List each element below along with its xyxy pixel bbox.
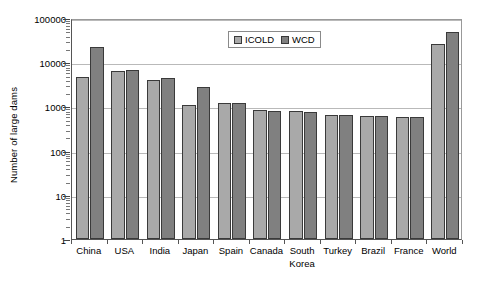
bar-category-group (108, 20, 144, 239)
y-minor-tick (66, 121, 70, 122)
bar-icold (289, 111, 303, 239)
x-tick-label: France (394, 245, 424, 258)
x-tick-label: Japan (182, 245, 208, 258)
x-tick (107, 240, 108, 244)
y-minor-tick (66, 227, 70, 228)
bar-category-group (392, 20, 428, 239)
bar-wcd (232, 103, 246, 239)
y-minor-tick (66, 77, 70, 78)
bar-wcd (90, 47, 104, 239)
x-tick-label: Brazil (361, 245, 385, 258)
bar-wcd (375, 116, 389, 239)
y-major-tick (63, 19, 70, 20)
bar-icold (182, 105, 196, 239)
chart-legend: ICOLD WCD (228, 31, 321, 48)
x-tick (391, 240, 392, 244)
y-axis-labels: 100000100001000100101 (0, 0, 71, 285)
bar-wcd (446, 32, 460, 239)
x-tick (178, 240, 179, 244)
y-minor-tick (66, 117, 70, 118)
legend-entry-icold: ICOLD (234, 34, 274, 45)
y-major-tick (63, 196, 70, 197)
bar-wcd (268, 111, 282, 239)
x-tick (320, 240, 321, 244)
y-minor-tick (66, 109, 70, 110)
y-minor-tick (66, 112, 70, 113)
x-axis-labels: ChinaUSAIndiaJapanSpainCanadaSouth Korea… (71, 245, 462, 283)
bar-wcd (126, 70, 140, 239)
bar-category-group (143, 20, 179, 239)
x-tick-label: China (76, 245, 101, 258)
y-minor-tick (66, 219, 70, 220)
legend-label-icold: ICOLD (245, 34, 274, 45)
y-minor-tick (66, 94, 70, 95)
bar-category-group (250, 20, 286, 239)
plot-area (71, 19, 462, 240)
y-minor-tick (66, 169, 70, 170)
x-tick-label: India (150, 245, 171, 258)
bar-category-group (72, 20, 108, 239)
y-minor-tick (66, 50, 70, 51)
y-major-tick (63, 63, 70, 64)
y-minor-tick (66, 198, 70, 199)
legend-label-wcd: WCD (292, 34, 315, 45)
y-minor-tick (66, 29, 70, 30)
y-minor-tick (66, 183, 70, 184)
y-minor-tick (66, 37, 70, 38)
legend-swatch-icold (234, 36, 242, 44)
chart-container: Number of large dams 1000001000010001001… (0, 0, 482, 285)
bar-category-group (321, 20, 357, 239)
x-tick (71, 240, 72, 244)
bar-icold (111, 71, 125, 239)
x-tick (284, 240, 285, 244)
x-tick-label: USA (115, 245, 135, 258)
x-tick-label: World (432, 245, 457, 258)
y-major-tick (63, 240, 70, 241)
x-tick-label: Canada (250, 245, 283, 258)
y-minor-tick (66, 203, 70, 204)
y-minor-tick (66, 42, 70, 43)
y-minor-tick (66, 200, 70, 201)
bar-icold (360, 116, 374, 239)
x-tick (142, 240, 143, 244)
bar-icold (396, 117, 410, 239)
bar-icold (76, 77, 90, 239)
x-tick-label: Spain (219, 245, 243, 258)
x-tick (213, 240, 214, 244)
y-major-tick (63, 107, 70, 108)
bar-category-group (179, 20, 215, 239)
y-minor-tick (66, 156, 70, 157)
y-major-tick (63, 152, 70, 153)
y-minor-tick (66, 23, 70, 24)
bar-icold (431, 44, 445, 239)
bar-icold (253, 110, 267, 239)
y-minor-tick (66, 213, 70, 214)
y-minor-tick (66, 114, 70, 115)
bar-wcd (304, 112, 318, 240)
bar-icold (325, 115, 339, 239)
y-minor-tick (66, 131, 70, 132)
x-tick (249, 240, 250, 244)
bar-group (72, 20, 461, 239)
y-minor-tick (66, 26, 70, 27)
x-tick (462, 240, 463, 244)
bar-wcd (197, 87, 211, 239)
bar-category-group (285, 20, 321, 239)
legend-entry-wcd: WCD (281, 34, 315, 45)
bar-wcd (410, 117, 424, 239)
y-minor-tick (66, 175, 70, 176)
y-minor-tick (66, 32, 70, 33)
y-minor-tick (66, 86, 70, 87)
y-minor-tick (66, 209, 70, 210)
y-tick-label: 100000 (34, 14, 66, 25)
y-minor-tick (66, 125, 70, 126)
y-minor-tick (66, 154, 70, 155)
y-minor-tick (66, 70, 70, 71)
x-tick-label: Turkey (323, 245, 352, 258)
x-tick (426, 240, 427, 244)
y-minor-tick (66, 161, 70, 162)
x-tick (355, 240, 356, 244)
y-minor-tick (66, 68, 70, 69)
y-minor-tick (66, 165, 70, 166)
y-minor-tick (66, 138, 70, 139)
